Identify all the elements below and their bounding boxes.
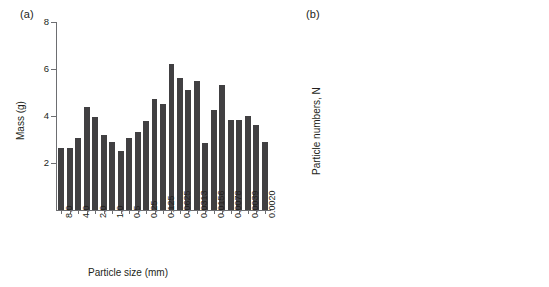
panel-b: (b) Particle numbers, N ××××××××××××××××… xyxy=(278,0,549,287)
bar xyxy=(143,121,149,210)
panel-a: (a) Mass (g) 2468 8.04.02.01.00.50.250.1… xyxy=(0,0,278,287)
panel-a-x-axis-title: Particle size (mm) xyxy=(88,268,168,278)
bar xyxy=(169,64,175,210)
x-tick-mark xyxy=(231,211,232,214)
y-tick-mark xyxy=(51,116,56,117)
panel-b-label: (b) xyxy=(306,8,320,20)
x-tick-mark xyxy=(112,211,113,214)
x-tick-mark xyxy=(146,211,147,214)
bar xyxy=(126,138,132,210)
x-tick-label: 0.25 xyxy=(150,200,159,218)
x-tick-label: 8.0 xyxy=(65,205,74,218)
bar xyxy=(152,99,158,210)
bar xyxy=(135,132,141,210)
y-tick-mark xyxy=(51,69,56,70)
y-tick-mark xyxy=(51,163,56,164)
x-tick-label: 1.0 xyxy=(116,205,125,218)
x-tick-label: 0.5 xyxy=(133,205,142,218)
bar xyxy=(160,104,166,210)
bar xyxy=(58,148,64,210)
x-tick-mark xyxy=(95,211,96,214)
x-tick-mark xyxy=(214,211,215,214)
x-tick-mark xyxy=(197,211,198,214)
y-tick-label: 6 xyxy=(38,64,49,74)
panel-a-y-axis-title: Mass (g) xyxy=(16,101,26,140)
x-tick-mark xyxy=(61,211,62,214)
panel-a-label: (a) xyxy=(20,8,34,20)
x-tick-label: 4.0 xyxy=(82,205,91,218)
y-tick-label: 8 xyxy=(38,17,49,27)
panel-a-plot-area xyxy=(57,22,269,210)
bar xyxy=(75,138,81,210)
x-tick-label: 0.0020 xyxy=(268,190,277,218)
x-tick-mark xyxy=(163,211,164,214)
x-tick-label: 0.125 xyxy=(167,195,176,218)
y-tick-label: 4 xyxy=(38,111,49,121)
x-tick-mark xyxy=(180,211,181,214)
bar xyxy=(84,107,90,210)
bar xyxy=(109,142,115,210)
bar xyxy=(92,117,98,210)
x-tick-label: 2.0 xyxy=(99,205,108,218)
bar xyxy=(67,148,73,210)
x-tick-label: 0.0313 xyxy=(200,190,209,218)
x-tick-label: 0.0156 xyxy=(217,190,226,218)
x-tick-mark xyxy=(265,211,266,214)
x-tick-label: 0.0625 xyxy=(183,190,192,218)
x-tick-mark xyxy=(129,211,130,214)
bar xyxy=(101,135,107,210)
panel-b-y-axis-title: Particle numbers, N xyxy=(312,87,322,175)
y-tick-mark xyxy=(51,22,56,23)
x-tick-mark xyxy=(248,211,249,214)
x-tick-label: 0.0078 xyxy=(234,190,243,218)
y-tick-label: 2 xyxy=(38,158,49,168)
figure-root: (a) Mass (g) 2468 8.04.02.01.00.50.250.1… xyxy=(0,0,549,287)
x-tick-label: 0.0039 xyxy=(251,190,260,218)
x-tick-mark xyxy=(78,211,79,214)
bar xyxy=(118,151,124,210)
